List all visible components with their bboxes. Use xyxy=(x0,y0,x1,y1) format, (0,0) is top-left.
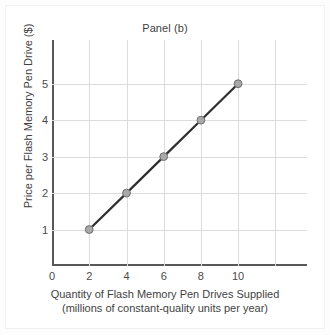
data-point xyxy=(85,226,93,234)
data-point xyxy=(123,189,131,197)
y-axis-label: Price per Flash Memory Pen Drive ($) xyxy=(22,16,34,216)
plot-area xyxy=(52,40,307,266)
x-axis-label: Quantity of Flash Memory Pen Drives Supp… xyxy=(0,287,330,315)
y-tick-label: 4 xyxy=(32,114,48,126)
y-tick-label: 5 xyxy=(32,78,48,90)
y-tick-label: 3 xyxy=(32,151,48,163)
x-tick-label: 8 xyxy=(188,270,214,282)
data-point xyxy=(234,80,242,88)
x-tick-label: 0 xyxy=(39,270,65,282)
y-tick-label: 2 xyxy=(32,187,48,199)
x-tick-label: 4 xyxy=(114,270,140,282)
x-tick-labels: 0246810 xyxy=(52,270,307,286)
y-tick-label: 1 xyxy=(32,224,48,236)
supply-curve xyxy=(52,40,307,266)
chart-figure: Panel (b) 12345 0246810 Price per Flash … xyxy=(0,0,330,335)
x-tick-label: 6 xyxy=(151,270,177,282)
data-point xyxy=(160,153,168,161)
x-tick-label: 2 xyxy=(76,270,102,282)
data-point xyxy=(197,116,205,124)
x-axis-label-line1: Quantity of Flash Memory Pen Drives Supp… xyxy=(0,287,330,301)
x-axis-label-line2: (millions of constant-quality units per … xyxy=(0,301,330,315)
x-tick-label: 10 xyxy=(225,270,251,282)
chart-title: Panel (b) xyxy=(0,22,330,34)
